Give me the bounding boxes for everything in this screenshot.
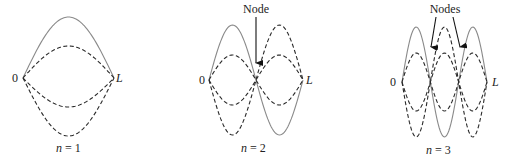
node-label: Node [243, 2, 269, 16]
right-end-label: L [115, 71, 123, 85]
dashed-wave-curve [402, 27, 487, 137]
mode-variable: n [56, 141, 62, 155]
right-end-label: L [305, 73, 313, 87]
left-end-label: 0 [199, 73, 205, 87]
node-arrow-right-icon [453, 17, 460, 47]
mode-value: = 2 [250, 141, 266, 155]
right-end-label: L [491, 75, 499, 89]
dashed-wave-curve [402, 53, 487, 111]
panel-mode-2: 0 L Node n = 2 [199, 2, 313, 155]
mode-caption: n = 2 [241, 141, 266, 155]
mode-caption: n = 1 [56, 141, 81, 155]
panel-mode-1: 0 L n = 1 [12, 17, 123, 155]
mode-caption: n = 3 [426, 143, 451, 157]
node-arrow-left-icon [431, 17, 436, 47]
left-end-label: 0 [390, 75, 396, 89]
solid-wave-curve [402, 27, 487, 137]
nodes-label: Nodes [430, 2, 461, 16]
standing-wave-diagram: 0 L n = 1 0 L Node n = 2 0 L Nodes n [0, 0, 508, 162]
mode-variable: n [426, 143, 432, 157]
mode-value: = 3 [435, 143, 451, 157]
left-end-label: 0 [12, 71, 18, 85]
dashed-wave-curve [23, 78, 114, 107]
panel-mode-3: 0 L Nodes n = 3 [390, 2, 499, 157]
dashed-wave-curve [402, 53, 487, 111]
mode-value: = 1 [65, 141, 81, 155]
mode-variable: n [241, 141, 247, 155]
solid-wave-curve [23, 17, 114, 78]
